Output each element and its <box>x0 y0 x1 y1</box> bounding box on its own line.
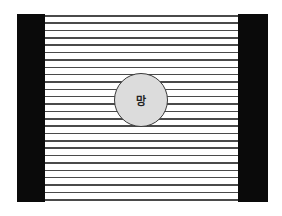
horizontal-line <box>45 44 238 46</box>
horizontal-line <box>45 192 238 194</box>
horizontal-line <box>45 67 238 69</box>
horizontal-line <box>45 162 238 164</box>
horizontal-line <box>45 30 238 32</box>
horizontal-line <box>45 133 238 135</box>
horizontal-line <box>45 147 238 149</box>
horizontal-line <box>45 155 238 157</box>
center-circle: 망 <box>114 73 168 127</box>
horizontal-line <box>45 59 238 61</box>
horizontal-line <box>45 177 238 179</box>
horizontal-line <box>45 37 238 39</box>
horizontal-line <box>45 170 238 172</box>
horizontal-line <box>45 184 238 186</box>
center-label: 망 <box>136 92 146 108</box>
left-black-bar <box>17 14 45 202</box>
horizontal-line <box>45 15 238 17</box>
horizontal-line <box>45 22 238 24</box>
horizontal-line <box>45 199 238 201</box>
horizontal-line <box>45 140 238 142</box>
horizontal-line <box>45 52 238 54</box>
right-black-bar <box>238 14 268 202</box>
